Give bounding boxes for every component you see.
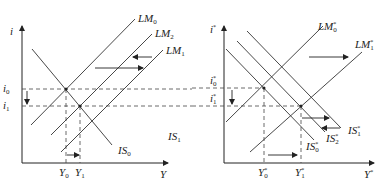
left-x-axis-label: Y [160, 168, 168, 180]
label-i1-star: i*1 [210, 92, 217, 106]
label-i0: i0 [3, 82, 10, 96]
label-lm2: LM2 [154, 27, 174, 41]
label-i0-star: i*0 [210, 74, 217, 88]
label-y1: Y1 [75, 166, 85, 180]
is0-star-curve [226, 49, 314, 140]
equilibrium-point-1 [79, 105, 82, 108]
right-x-axis-label: Y* [364, 168, 373, 180]
equilibrium-star-point-1 [300, 105, 303, 108]
label-lm1-star: LM*1 [354, 38, 374, 52]
lm0-curve [31, 19, 135, 125]
lm1-curve [61, 50, 163, 152]
label-is1: IS1 [167, 130, 181, 144]
label-is0-star: IS*0 [305, 140, 319, 154]
is1-star-curve [247, 31, 341, 128]
islm-diagram: i Y i0 i1 Y0 Y1 LM0 LM2 LM1 IS0 IS1 [0, 0, 385, 189]
label-is1-star: IS*1 [347, 124, 361, 138]
label-lm0-star: LM*0 [317, 20, 337, 34]
label-is2-star: IS*2 [325, 132, 339, 146]
lm2-curve [51, 34, 152, 135]
label-y0-star: Y*0 [258, 166, 268, 180]
label-is0: IS0 [117, 144, 131, 158]
label-i1: i1 [3, 99, 10, 113]
lm0-star-curve [226, 26, 323, 122]
label-y0: Y0 [59, 166, 69, 180]
lm1-star-curve [250, 52, 362, 152]
right-panel: i* Y* i*0 i*1 Y*0 Y*1 LM*0 LM*1 IS*0 IS*… [192, 20, 374, 180]
is0-curve [32, 49, 112, 145]
equilibrium-star-point-0 [263, 87, 266, 90]
left-y-axis-label: i [10, 25, 13, 37]
equilibrium-point-0 [65, 88, 68, 91]
label-y1-star: Y*1 [295, 166, 305, 180]
label-lm0: LM0 [137, 12, 157, 26]
left-panel: i Y i0 i1 Y0 Y1 LM0 LM2 LM1 IS0 IS1 [3, 12, 192, 180]
right-y-axis-label: i* [210, 23, 216, 35]
label-lm1: LM1 [165, 44, 185, 58]
